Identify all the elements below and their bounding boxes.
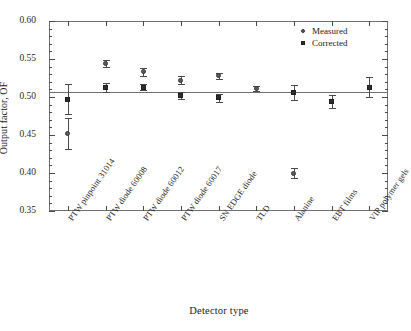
y-axis-minor-tick bbox=[49, 74, 52, 75]
y-axis-tick bbox=[49, 173, 55, 174]
x-axis-tick bbox=[181, 21, 182, 26]
error-bar-cap bbox=[291, 85, 298, 86]
x-axis-tick bbox=[106, 206, 107, 211]
data-point-measured bbox=[291, 171, 296, 176]
data-point-corrected bbox=[65, 97, 70, 102]
data-point-corrected bbox=[103, 85, 108, 90]
y-axis-minor-tick bbox=[385, 44, 388, 45]
x-axis-tick bbox=[219, 206, 220, 211]
y-axis-tick bbox=[382, 97, 388, 98]
y-axis-minor-tick bbox=[49, 181, 52, 182]
y-axis-minor-tick bbox=[49, 143, 52, 144]
y-axis-tick bbox=[382, 135, 388, 136]
y-axis-minor-tick bbox=[385, 74, 388, 75]
y-axis-title: Output factor, OF bbox=[0, 0, 9, 60]
error-bar-cap bbox=[329, 95, 336, 96]
y-axis-minor-tick bbox=[49, 44, 52, 45]
y-axis-minor-tick bbox=[385, 165, 388, 166]
y-axis-minor-tick bbox=[385, 36, 388, 37]
y-axis-minor-tick bbox=[49, 158, 52, 159]
data-point-measured bbox=[65, 131, 70, 136]
y-axis-tick-label: 0.55 bbox=[19, 54, 36, 64]
error-bar-cap bbox=[291, 178, 298, 179]
error-bar-cap bbox=[366, 97, 373, 98]
legend: Measured Corrected bbox=[299, 25, 381, 49]
error-bar-cap bbox=[178, 99, 185, 100]
x-axis-tick bbox=[294, 206, 295, 211]
x-axis-tick bbox=[68, 21, 69, 26]
y-axis-minor-tick bbox=[49, 165, 52, 166]
legend-marker-circle-icon bbox=[301, 29, 305, 33]
data-point-measured bbox=[141, 69, 146, 74]
figure-caption bbox=[0, 321, 398, 331]
y-axis-minor-tick bbox=[49, 82, 52, 83]
error-bar-cap bbox=[178, 84, 185, 85]
y-axis-minor-tick bbox=[49, 89, 52, 90]
reference-line bbox=[49, 92, 388, 93]
y-axis-minor-tick bbox=[49, 188, 52, 189]
y-axis-tick-label: 0.60 bbox=[19, 16, 36, 26]
x-axis-tick bbox=[294, 21, 295, 26]
y-axis-minor-tick bbox=[385, 29, 388, 30]
y-axis-minor-tick bbox=[49, 67, 52, 68]
y-axis-minor-tick bbox=[385, 120, 388, 121]
y-axis-tick bbox=[382, 59, 388, 60]
x-axis-tick bbox=[181, 206, 182, 211]
error-bar-cap bbox=[65, 118, 72, 119]
error-bar-cap bbox=[366, 77, 373, 78]
data-point-corrected bbox=[141, 85, 146, 90]
data-point-measured bbox=[178, 78, 183, 83]
error-bar-cap bbox=[103, 83, 110, 84]
x-axis-tick bbox=[143, 206, 144, 211]
y-axis-tick bbox=[49, 59, 55, 60]
y-axis-minor-tick bbox=[49, 150, 52, 151]
y-axis-minor-tick bbox=[385, 112, 388, 113]
y-axis-minor-tick bbox=[385, 105, 388, 106]
legend-item-measured: Measured bbox=[299, 25, 381, 37]
y-axis-minor-tick bbox=[49, 196, 52, 197]
x-axis-tick bbox=[68, 206, 69, 211]
error-bar-cap bbox=[65, 84, 72, 85]
data-point-corrected bbox=[178, 93, 183, 98]
y-axis-minor-tick bbox=[385, 150, 388, 151]
legend-marker-square-icon bbox=[301, 41, 305, 45]
y-axis-minor-tick bbox=[49, 105, 52, 106]
error-bar-cap bbox=[291, 100, 298, 101]
error-bar-cap bbox=[216, 102, 223, 103]
error-bar-cap bbox=[103, 67, 110, 68]
y-axis-minor-tick bbox=[385, 82, 388, 83]
error-bar-cap bbox=[291, 168, 298, 169]
y-axis-tick-label: 0.45 bbox=[19, 130, 36, 140]
y-axis-minor-tick bbox=[385, 89, 388, 90]
x-axis-tick bbox=[143, 21, 144, 26]
x-axis-tick bbox=[332, 206, 333, 211]
data-point-corrected bbox=[291, 90, 296, 95]
x-axis-title: Detector type bbox=[0, 305, 398, 316]
y-axis-minor-tick bbox=[49, 36, 52, 37]
y-axis-minor-tick bbox=[49, 112, 52, 113]
y-axis-tick bbox=[49, 211, 55, 212]
y-axis-minor-tick bbox=[385, 51, 388, 52]
error-bar-cap bbox=[329, 108, 336, 109]
y-axis-tick bbox=[382, 173, 388, 174]
y-axis-minor-tick bbox=[49, 203, 52, 204]
y-axis-tick bbox=[382, 21, 388, 22]
y-axis-tick bbox=[49, 21, 55, 22]
x-axis-tick bbox=[256, 21, 257, 26]
y-axis-tick-label: 0.35 bbox=[19, 206, 36, 216]
data-point-corrected bbox=[329, 99, 334, 104]
data-point-measured bbox=[254, 86, 259, 91]
y-axis-tick-label: 0.50 bbox=[19, 92, 36, 102]
x-axis-tick bbox=[106, 21, 107, 26]
legend-label-measured: Measured bbox=[312, 25, 348, 37]
error-bar-cap bbox=[103, 92, 110, 93]
data-point-corrected bbox=[367, 85, 372, 90]
data-point-measured bbox=[103, 61, 108, 66]
data-point-corrected bbox=[216, 95, 221, 100]
y-axis-minor-tick bbox=[385, 127, 388, 128]
data-point-measured bbox=[216, 73, 221, 78]
y-axis-minor-tick bbox=[49, 120, 52, 121]
legend-item-corrected: Corrected bbox=[299, 37, 381, 49]
y-axis-minor-tick bbox=[385, 143, 388, 144]
